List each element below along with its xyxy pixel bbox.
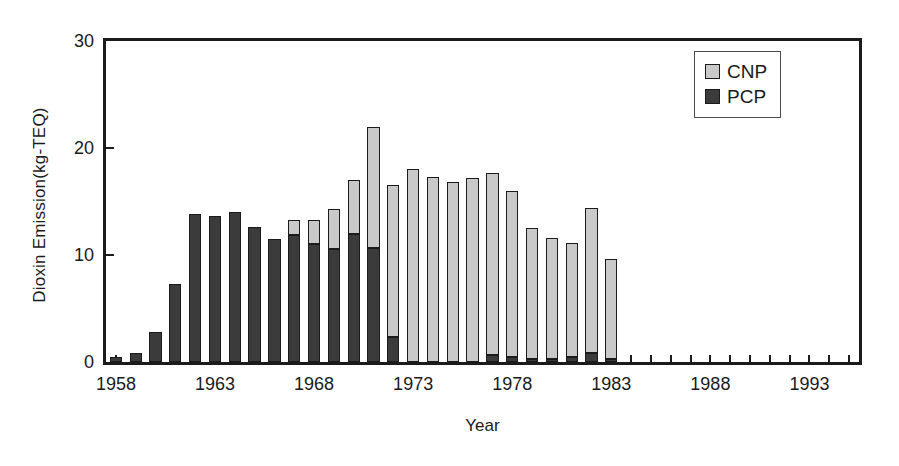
bar-segment-cnp: [546, 238, 558, 359]
y-axis-tick-label: 30: [46, 31, 94, 52]
bar-segment-pcp: [169, 284, 181, 362]
bar-group: [585, 208, 597, 362]
bar-group: [605, 259, 617, 362]
bar-segment-cnp: [447, 182, 459, 362]
legend-label-pcp: PCP: [727, 87, 766, 106]
bar-group: [546, 238, 558, 362]
bar-group: [209, 216, 221, 362]
x-axis-tick-label: 1968: [294, 374, 334, 395]
x-axis-tick: [670, 355, 672, 362]
bar-segment-pcp: [130, 353, 142, 362]
bar-segment-pcp: [209, 216, 221, 362]
x-axis-tick: [729, 355, 731, 362]
x-axis-tick: [690, 355, 692, 362]
bar-segment-pcp: [367, 248, 379, 362]
x-axis-tick: [630, 355, 632, 362]
x-axis-tick-label: 1993: [789, 374, 829, 395]
x-axis-tick-label: 1988: [690, 374, 730, 395]
bar-segment-pcp: [506, 357, 518, 362]
bar-group: [189, 214, 201, 362]
bar-segment-cnp: [486, 173, 498, 355]
x-axis-tick-label: 1983: [591, 374, 631, 395]
bar-group: [308, 220, 320, 362]
bar-segment-cnp: [526, 228, 538, 359]
legend-item-pcp: PCP: [705, 84, 767, 109]
bar-group: [427, 177, 439, 362]
x-axis-title: Year: [103, 416, 862, 436]
bar-segment-cnp: [288, 220, 300, 235]
bar-group: [268, 239, 280, 362]
bar-segment-pcp: [110, 357, 122, 362]
bar-segment-cnp: [348, 180, 360, 234]
bar-group: [169, 284, 181, 362]
bar-group: [288, 220, 300, 362]
x-axis-tick: [789, 355, 791, 362]
bar-segment-cnp: [466, 178, 478, 362]
bar-group: [130, 353, 142, 362]
bar-group: [466, 178, 478, 362]
x-axis-tick: [749, 355, 751, 362]
y-axis-tick-label: 0: [46, 352, 94, 373]
bar-segment-cnp: [585, 208, 597, 354]
y-axis-tick: [106, 147, 114, 149]
x-axis-tick: [808, 355, 810, 362]
bar-group: [328, 209, 340, 362]
x-axis-tick-label: 1958: [96, 374, 136, 395]
bar-segment-cnp: [367, 127, 379, 248]
x-axis-tick-label: 1973: [393, 374, 433, 395]
bar-segment-pcp: [585, 353, 597, 362]
bar-segment-cnp: [407, 169, 419, 362]
bar-group: [447, 182, 459, 362]
bar-segment-pcp: [308, 244, 320, 362]
bar-segment-pcp: [546, 359, 558, 362]
bar-segment-pcp: [288, 235, 300, 362]
bar-segment-pcp: [248, 227, 260, 362]
bar-group: [486, 173, 498, 362]
x-axis-tick-label: 1978: [492, 374, 532, 395]
bar-segment-pcp: [605, 359, 617, 362]
bar-group: [248, 227, 260, 362]
bar-segment-pcp: [387, 337, 399, 362]
bar-segment-pcp: [486, 355, 498, 362]
y-axis-tick-label: 10: [46, 245, 94, 266]
x-axis-tick-labels: 19581963196819731978198319881993: [103, 374, 862, 404]
legend-swatch-cnp-icon: [705, 64, 720, 79]
bar-segment-pcp: [229, 212, 241, 362]
bar-segment-pcp: [268, 239, 280, 362]
bar-group: [566, 243, 578, 362]
x-axis-tick: [828, 355, 830, 362]
x-axis-tick: [848, 355, 850, 362]
bar-group: [506, 191, 518, 362]
bar-segment-cnp: [308, 220, 320, 245]
bar-group: [387, 185, 399, 362]
bar-segment-cnp: [387, 185, 399, 337]
x-axis-tick: [650, 355, 652, 362]
legend-label-cnp: CNP: [727, 62, 767, 81]
bar-segment-pcp: [328, 249, 340, 362]
y-axis-tick: [106, 254, 114, 256]
legend-item-cnp: CNP: [705, 59, 767, 84]
bar-segment-cnp: [427, 177, 439, 362]
legend-swatch-pcp-icon: [705, 89, 720, 104]
bar-segment-cnp: [506, 191, 518, 357]
bar-group: [110, 357, 122, 362]
bar-group: [407, 169, 419, 362]
bar-group: [348, 180, 360, 362]
y-axis-tick-label: 20: [46, 138, 94, 159]
bar-group: [149, 332, 161, 362]
bar-segment-cnp: [328, 209, 340, 249]
bar-segment-pcp: [189, 214, 201, 362]
legend: CNP PCP: [694, 51, 781, 118]
x-axis-tick: [709, 355, 711, 362]
bar-segment-pcp: [566, 357, 578, 362]
y-axis-tick-labels: 0102030: [36, 0, 94, 466]
dioxin-emission-chart: Dioxin Emission(kg-TEQ) 0102030 19581963…: [0, 0, 899, 466]
x-axis-tick: [769, 355, 771, 362]
bar-group: [367, 127, 379, 362]
bar-segment-cnp: [605, 259, 617, 359]
bar-segment-pcp: [149, 332, 161, 362]
bar-group: [526, 228, 538, 362]
bar-group: [229, 212, 241, 362]
bar-segment-cnp: [566, 243, 578, 356]
x-axis-tick-label: 1963: [195, 374, 235, 395]
